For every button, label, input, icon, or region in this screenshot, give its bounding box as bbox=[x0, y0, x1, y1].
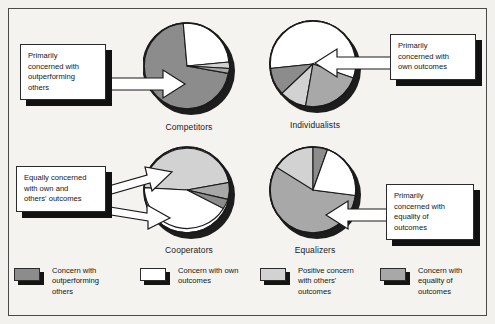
legend-line: outperforming bbox=[52, 276, 132, 286]
callout-line: Equally concerned bbox=[24, 173, 99, 184]
chart-legend: Concern with outperforming others Concer… bbox=[14, 266, 482, 310]
callout-line: concerned with bbox=[398, 52, 469, 63]
callout-line: Primarily bbox=[398, 41, 469, 52]
legend-swatch-wrap bbox=[140, 268, 170, 285]
callout-box-competitors: Primarily concerned with outperforming o… bbox=[20, 44, 106, 100]
legend-line: outcomes bbox=[178, 276, 270, 286]
pie-label-cooperators: Cooperators bbox=[119, 245, 259, 255]
legend-swatch-wrap bbox=[260, 268, 290, 285]
pie-slices-competitors bbox=[143, 22, 235, 114]
callout-line: equality of bbox=[394, 212, 467, 223]
callout-box-equalizers: Primarily concerned with equality of out… bbox=[386, 184, 474, 240]
pie-label-competitors: Competitors bbox=[119, 122, 259, 132]
legend-swatch-own-outcomes bbox=[140, 268, 166, 281]
callout-line: others' outcomes bbox=[24, 194, 99, 205]
legend-label-equality: Concern with equality of outcomes bbox=[418, 266, 495, 297]
figure-canvas: Competitors Individualists bbox=[0, 0, 495, 324]
callout-line: Primarily bbox=[28, 51, 99, 62]
legend-swatch-others-outcomes bbox=[260, 268, 286, 281]
callout-line: concerned with bbox=[394, 202, 467, 213]
legend-line: Concern with own bbox=[178, 266, 270, 276]
callout-line: others bbox=[28, 83, 99, 94]
legend-line: equality of bbox=[418, 276, 495, 286]
callout-box-cooperators: Equally concerned with own and others' o… bbox=[16, 166, 106, 212]
pie-slices-cooperators bbox=[143, 146, 235, 238]
legend-label-own-outcomes: Concern with own outcomes bbox=[178, 266, 270, 287]
legend-line: outcomes bbox=[418, 287, 495, 297]
callout-line: own outcomes bbox=[398, 62, 469, 73]
legend-label-others-outcomes: Positive concern with others' outcomes bbox=[298, 266, 386, 297]
legend-swatch-outperforming bbox=[14, 268, 40, 281]
callout-line: concerned with bbox=[28, 62, 99, 73]
legend-label-outperforming: Concern with outperforming others bbox=[52, 266, 132, 297]
pie-slices-individualists bbox=[269, 20, 361, 112]
callout-box-individualists: Primarily concerned with own outcomes bbox=[390, 34, 476, 80]
callout-cooperators: Equally concerned with own and others' o… bbox=[16, 166, 112, 220]
pie-label-equalizers: Equalizers bbox=[245, 245, 385, 255]
pie-chart-individualists bbox=[269, 20, 361, 112]
legend-swatch-equality bbox=[380, 268, 406, 281]
pie-chart-cooperators bbox=[143, 146, 235, 238]
callout-line: Primarily bbox=[394, 191, 467, 202]
legend-line: others bbox=[52, 287, 132, 297]
legend-line: Positive concern bbox=[298, 266, 386, 276]
callout-equalizers: Primarily concerned with equality of out… bbox=[386, 184, 480, 248]
legend-swatch-wrap bbox=[380, 268, 410, 285]
callout-individualists: Primarily concerned with own outcomes bbox=[390, 34, 482, 86]
callout-line: with own and bbox=[24, 184, 99, 195]
legend-line: Concern with bbox=[52, 266, 132, 276]
callout-competitors: Primarily concerned with outperforming o… bbox=[20, 44, 112, 106]
pie-slices-equalizers bbox=[269, 146, 361, 238]
legend-line: with others' bbox=[298, 276, 386, 286]
pie-chart-competitors bbox=[143, 22, 235, 114]
callout-line: outperforming bbox=[28, 72, 99, 83]
legend-line: Concern with bbox=[418, 266, 495, 276]
callout-line: outcomes bbox=[394, 223, 467, 234]
pie-chart-equalizers bbox=[269, 146, 361, 238]
legend-line: outcomes bbox=[298, 287, 386, 297]
legend-swatch-wrap bbox=[14, 268, 44, 285]
pie-label-individualists: Individualists bbox=[245, 120, 385, 130]
